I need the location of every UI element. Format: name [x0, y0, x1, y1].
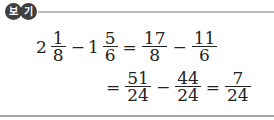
minus-operator: −: [172, 37, 186, 57]
badge-char-2: 기: [20, 3, 37, 20]
numerator: 7: [230, 70, 245, 86]
fraction-4: 11 6: [192, 30, 218, 63]
result-fraction: 7 24: [225, 70, 251, 103]
fraction-2: 5 6: [103, 30, 118, 63]
example-badge: 보 기: [5, 3, 37, 21]
denominator: 24: [125, 87, 151, 103]
fraction-5: 51 24: [125, 70, 151, 103]
numerator: 44: [175, 70, 201, 86]
mixed-whole-2: 1: [88, 37, 99, 57]
fraction-6: 44 24: [175, 70, 201, 103]
numerator: 51: [125, 70, 151, 86]
minus-operator: −: [71, 37, 85, 57]
equation-row-1: 2 1 8 − 1 5 6 = 17 8 − 11 6: [36, 30, 219, 63]
equals-operator: =: [106, 77, 120, 97]
denominator: 8: [51, 47, 66, 63]
numerator: 5: [103, 30, 118, 46]
equation-row-2: = 51 24 − 44 24 = 7 24: [103, 70, 253, 103]
fraction-1: 1 8: [51, 30, 66, 63]
denominator: 24: [175, 87, 201, 103]
mixed-whole-1: 2: [36, 37, 47, 57]
denominator: 8: [147, 47, 162, 63]
numerator: 1: [51, 30, 66, 46]
equals-operator: =: [206, 77, 220, 97]
denominator: 6: [103, 47, 118, 63]
top-divider: [38, 11, 274, 13]
minus-operator: −: [156, 77, 170, 97]
denominator: 6: [197, 47, 212, 63]
denominator: 24: [225, 87, 251, 103]
numerator: 17: [142, 30, 168, 46]
numerator: 11: [192, 30, 218, 46]
fraction-3: 17 8: [142, 30, 168, 63]
bottom-divider: [0, 115, 274, 117]
equals-operator: =: [123, 37, 137, 57]
